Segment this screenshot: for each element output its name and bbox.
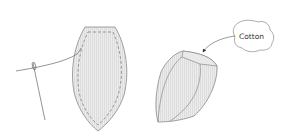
fabric-petal [72,27,126,131]
callout-arrow [203,36,235,52]
sewing-diagram: Cotton [0,0,289,136]
stuffed-bud [156,51,217,122]
thread [16,48,81,71]
cotton-callout: Cotton [203,20,274,52]
needle [33,63,45,120]
cotton-label: Cotton [239,32,264,41]
needle-thread [16,48,81,120]
